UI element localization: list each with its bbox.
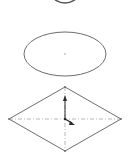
sketch-canvas[interactable]	[0, 0, 128, 158]
vertex-bottom[interactable]	[64, 150, 66, 152]
top-partial-ellipse[interactable]	[53, 0, 77, 3]
up-arrow-icon	[63, 95, 67, 101]
diagonal-arrow-icon	[69, 121, 75, 125]
vertex-top[interactable]	[64, 86, 66, 88]
vertex-right[interactable]	[120, 118, 122, 120]
cad-graphics-viewport[interactable]	[0, 0, 128, 158]
ellipse-center-point[interactable]	[64, 53, 66, 55]
vertex-left[interactable]	[8, 118, 10, 120]
